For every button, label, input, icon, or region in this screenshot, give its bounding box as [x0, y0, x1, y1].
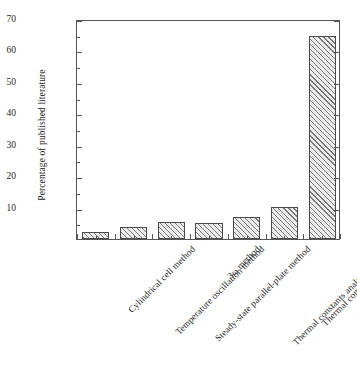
x-tick-mark [303, 234, 304, 239]
y-minor-tick [77, 162, 80, 163]
x-category-label: Steady-state parallel-plate method [213, 244, 312, 343]
x-minor-tick [284, 236, 285, 239]
x-minor-tick [96, 236, 97, 239]
y-minor-tick [77, 194, 80, 195]
y-tick-mark [77, 178, 82, 179]
y-axis-title: Percentage of published literature [37, 35, 47, 235]
y-tick-mark-right [334, 210, 339, 211]
x-tick-mark [77, 234, 78, 239]
y-tick-mark-right [334, 115, 339, 116]
plot-area [76, 20, 340, 240]
y-tick-label: 50 [0, 77, 16, 87]
y-tick-label: 10 [0, 203, 16, 213]
figure: Percentage of published literature 10203… [0, 0, 357, 391]
y-tick-mark-right [334, 21, 339, 22]
y-tick-mark [77, 52, 82, 53]
y-tick-mark [77, 84, 82, 85]
x-tick-mark [266, 234, 267, 239]
bar [271, 207, 298, 239]
x-minor-tick [322, 236, 323, 239]
bar [309, 36, 336, 239]
x-minor-tick [171, 236, 172, 239]
bar-series [77, 21, 339, 239]
x-minor-tick [209, 236, 210, 239]
y-tick-mark [77, 210, 82, 211]
y-minor-tick [77, 68, 80, 69]
y-minor-tick [77, 225, 80, 226]
y-tick-mark [77, 21, 82, 22]
x-category-label: 3ω method [225, 244, 262, 281]
y-tick-mark-right [334, 52, 339, 53]
y-tick-mark-right [334, 84, 339, 85]
y-tick-mark [77, 115, 82, 116]
x-tick-mark [228, 234, 229, 239]
x-minor-tick [247, 236, 248, 239]
y-tick-mark-right [334, 178, 339, 179]
y-minor-tick [77, 100, 80, 101]
x-tick-mark [152, 234, 153, 239]
y-minor-tick [77, 131, 80, 132]
y-tick-label: 70 [0, 14, 16, 24]
x-tick-mark [190, 234, 191, 239]
y-tick-label: 60 [0, 45, 16, 55]
y-tick-mark-right [334, 147, 339, 148]
y-minor-tick [77, 37, 80, 38]
x-tick-mark [115, 234, 116, 239]
y-tick-mark [77, 147, 82, 148]
x-minor-tick [134, 236, 135, 239]
x-tick-mark [340, 234, 341, 239]
y-tick-label: 40 [0, 108, 16, 118]
x-category-label: Cylindrical cell method [126, 244, 197, 315]
y-tick-label: 30 [0, 140, 16, 150]
y-tick-label: 20 [0, 171, 16, 181]
